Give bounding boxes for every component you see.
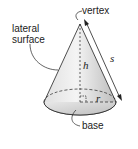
lateral-surface-label-line1: lateral [12, 23, 39, 34]
arrowhead-top [84, 19, 89, 26]
vertex-label: vertex [82, 5, 109, 16]
radius-label: r [96, 93, 100, 104]
slant-height-label: s [110, 53, 114, 64]
arrowhead-bottom [117, 94, 122, 101]
base-front [44, 102, 116, 115]
lateral-surface-label-line2: surface [12, 34, 45, 45]
lateral-leader [30, 44, 58, 70]
base-label: base [82, 120, 104, 131]
height-label: h [83, 60, 89, 71]
